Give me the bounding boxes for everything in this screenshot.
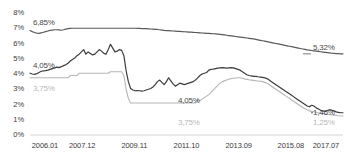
y-axis-tick-label: 8% <box>2 8 24 17</box>
x-axis-tick-label: 2017.07 <box>303 141 349 150</box>
series-line-lower-line <box>30 72 343 116</box>
y-axis-tick-label: 7% <box>2 23 24 32</box>
y-axis-tick-label: 0% <box>2 130 24 139</box>
x-axis-tick-label: 2011.10 <box>164 141 210 150</box>
middle-mid-label: 4,05% <box>178 96 200 105</box>
x-axis-tick-label: 2009.11 <box>111 141 157 150</box>
lower-start-label: 3,75% <box>33 84 55 93</box>
y-axis-tick-label: 1% <box>2 115 24 124</box>
lower-mid-label: 3,75% <box>178 118 200 127</box>
interest-rate-line-chart: 0%1%2%3%4%5%6%7%8% 2006.012007.122009.11… <box>0 0 350 164</box>
y-axis-tick-label: 6% <box>2 39 24 48</box>
x-axis-tick-label: 2007.12 <box>59 141 105 150</box>
middle-start-label: 4,05% <box>33 61 55 70</box>
upper-end-label: 5,32% <box>313 43 335 52</box>
y-axis-tick-label: 2% <box>2 100 24 109</box>
y-axis-tick-label: 3% <box>2 84 24 93</box>
y-axis-tick-label: 4% <box>2 69 24 78</box>
middle-end-label: 1,46% <box>313 108 335 117</box>
y-axis-tick-label: 5% <box>2 54 24 63</box>
upper-start-label: 6,85% <box>33 18 55 27</box>
lower-end-label: 1,25% <box>313 118 335 127</box>
x-axis-tick-label: 2013.09 <box>216 141 262 150</box>
series-line-upper-line <box>30 28 343 54</box>
